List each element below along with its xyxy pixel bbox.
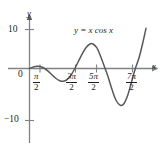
function-curve: [30, 28, 147, 105]
plot-canvas: [0, 0, 163, 146]
fraction-denominator: 2: [33, 83, 40, 92]
y-tick-label-10: 10: [8, 25, 18, 35]
fraction-numerator: 5π: [88, 72, 99, 81]
fraction-numerator: π: [33, 72, 40, 81]
fraction-numerator: 7π: [126, 72, 137, 81]
fraction-denominator: 2: [66, 83, 77, 92]
fraction-denominator: 2: [126, 83, 137, 92]
x-tick-label-3pi-over-2: 3π 2: [66, 72, 77, 92]
fraction-numerator: 3π: [66, 72, 77, 81]
x-tick-label-7pi-over-2: 7π 2: [126, 72, 137, 92]
x-axis-label: x: [152, 62, 156, 71]
y-axis-label: y: [27, 9, 31, 18]
graph-figure: y x 10 0 −10 π 2 3π 2 5π 2 7π 2 y = x co…: [0, 0, 163, 146]
curve-equation-annotation: y = x cos x: [74, 26, 113, 35]
fraction-denominator: 2: [88, 83, 99, 92]
y-tick-label-0: 0: [18, 70, 23, 80]
x-tick-label-pi-over-2: π 2: [33, 72, 40, 92]
y-tick-label-minus-10: −10: [4, 115, 19, 125]
x-tick-label-5pi-over-2: 5π 2: [88, 72, 99, 92]
